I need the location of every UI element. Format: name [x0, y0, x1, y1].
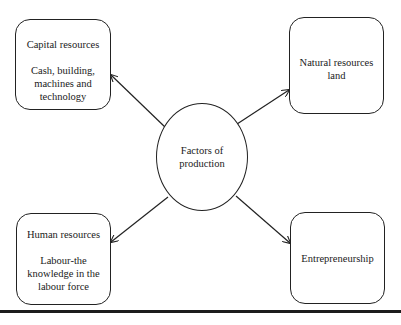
arrow-to-natural [234, 90, 289, 126]
center-label: Factors of production [170, 144, 234, 170]
horizontal-divider [0, 310, 401, 313]
node-description: Labour-the knowledge in the labour force [24, 254, 104, 293]
entrepreneurship-node: Entrepreneurship [290, 212, 385, 304]
human-resources-node: Human resources Labour-the knowledge in … [16, 213, 111, 305]
arrow-to-entrepreneurship [236, 196, 290, 243]
factors-of-production-center: Factors of production [156, 103, 248, 211]
arrow-to-human [111, 197, 168, 242]
diagram-canvas: Capital resources Cash, building, machin… [0, 0, 401, 325]
node-description: Cash, building, machines and technology [27, 64, 99, 103]
arrow-to-capital [111, 75, 166, 128]
capital-resources-node: Capital resources Cash, building, machin… [15, 19, 111, 110]
node-title: Capital resources [27, 38, 100, 51]
node-title: Human resources [27, 228, 100, 241]
node-title: Natural resources land [294, 56, 380, 82]
natural-resources-node: Natural resources land [289, 17, 384, 114]
node-title: Entrepreneurship [301, 252, 373, 265]
